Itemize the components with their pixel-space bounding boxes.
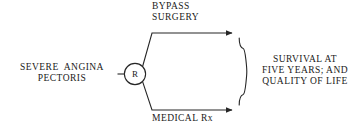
randomized-trial-flow-diagram: SEVERE ANGINA PECTORIS R BYPASS SURGERY …: [0, 0, 363, 136]
randomization-node-letter: R: [124, 63, 146, 85]
branch-label-medical-rx: MEDICAL Rx: [152, 113, 213, 124]
outcome-label: SURVIVAL AT FIVE YEARS; AND QUALITY OF L…: [254, 54, 356, 87]
outcome-grouping-brace: [239, 38, 247, 105]
branch-label-bypass-surgery: BYPASS SURGERY: [152, 1, 199, 23]
source-population-label: SEVERE ANGINA PECTORIS: [8, 62, 116, 84]
branch-arrow-medical-rx: [143, 82, 232, 110]
branch-arrow-bypass-surgery: [143, 33, 232, 67]
